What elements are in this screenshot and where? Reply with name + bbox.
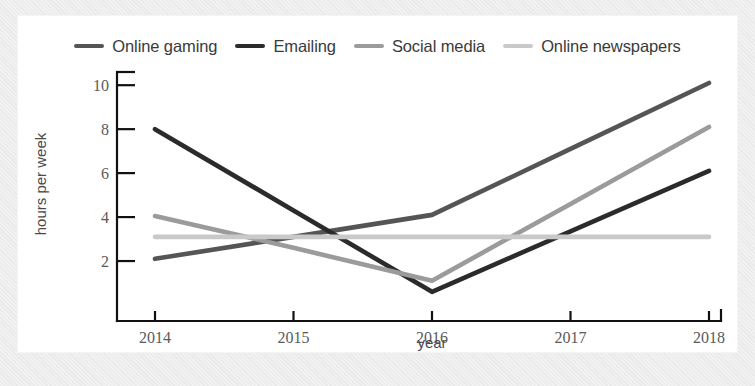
series-line-social-media <box>155 127 709 281</box>
y-tick-label: 4 <box>101 209 109 226</box>
x-tick-label: 2014 <box>139 329 171 346</box>
x-tick-label: 2018 <box>693 329 725 346</box>
y-tick-label: 8 <box>101 121 109 138</box>
screenshot-root: Online gaming Emailing Social media Onli… <box>0 0 755 386</box>
plot-area: 24681020142015201620172018 hours per wee… <box>18 16 737 352</box>
tick-label-layer: 24681020142015201620172018 <box>93 77 725 346</box>
y-axis-title: hours per week <box>32 132 49 235</box>
line-chart: 24681020142015201620172018 hours per wee… <box>18 16 737 352</box>
series-layer <box>155 83 709 292</box>
series-line-emailing <box>155 129 709 292</box>
y-tick-label: 6 <box>101 165 109 182</box>
chart-card: Online gaming Emailing Social media Onli… <box>18 16 737 352</box>
y-tick-label: 10 <box>93 77 109 94</box>
x-tick-label: 2015 <box>278 329 310 346</box>
y-tick-label: 2 <box>101 253 109 270</box>
x-axis-title: year <box>417 334 446 351</box>
x-tick-label: 2017 <box>555 329 587 346</box>
